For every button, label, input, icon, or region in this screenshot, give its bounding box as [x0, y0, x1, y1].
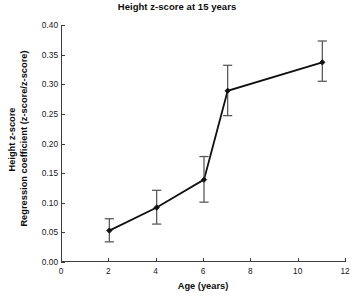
data-line [109, 62, 322, 230]
x-axis-tick-label: 10 [283, 266, 313, 276]
x-axis-tick-label: 12 [330, 266, 354, 276]
plot-area [61, 25, 345, 262]
x-axis-title: Age (years) [61, 281, 345, 291]
y-axis-tick-label: 0.30 [30, 79, 58, 89]
x-axis-tick-label: 4 [141, 266, 171, 276]
y-axis-tick-label: 0.15 [30, 168, 58, 178]
x-axis-tick-label: 2 [93, 266, 123, 276]
y-axis-tick-label: 0.10 [30, 198, 58, 208]
data-point-marker [320, 60, 325, 65]
y-axis-tick-label: 0.40 [30, 20, 58, 30]
x-axis-tick-label: 0 [46, 266, 76, 276]
y-axis-title: Height z-score Regression coefficient (z… [7, 14, 30, 264]
y-axis-tick-label: 0.25 [30, 109, 58, 119]
y-axis-tick-mark [61, 262, 65, 263]
chart-figure: Height z-score at 15 years Height z-scor… [0, 0, 354, 299]
y-axis-title-line-1: Height z-score [7, 14, 19, 266]
x-axis-tick-label: 6 [188, 266, 218, 276]
chart-title: Height z-score at 15 years [0, 1, 354, 12]
y-axis-tick-label: 0.20 [30, 139, 58, 149]
data-point-marker [225, 88, 230, 93]
y-axis-title-line-2: Regression coefficient (z-score/z-score) [18, 14, 30, 264]
y-axis-tick-label: 0.35 [30, 50, 58, 60]
data-series-svg [62, 25, 346, 262]
x-axis-tick-label: 8 [235, 266, 265, 276]
y-axis-tick-label: 0.05 [30, 227, 58, 237]
